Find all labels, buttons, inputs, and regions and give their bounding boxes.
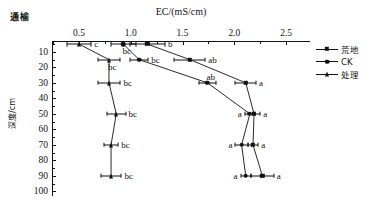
error-bar-cap bbox=[244, 112, 245, 117]
significance-label: bc bbox=[129, 109, 138, 119]
error-bar-cap bbox=[240, 174, 241, 179]
error-bar-cap bbox=[260, 112, 261, 117]
y-tick-label: 10 bbox=[24, 47, 48, 57]
x-tick bbox=[286, 41, 287, 45]
y-tick bbox=[52, 52, 56, 53]
data-point bbox=[244, 81, 248, 85]
significance-label: a bbox=[261, 140, 265, 150]
x-tick-label: 1.0 bbox=[125, 28, 137, 38]
error-bar-cap bbox=[205, 57, 206, 62]
data-point bbox=[188, 57, 192, 61]
y-tick bbox=[52, 98, 56, 99]
y-tick-minor bbox=[52, 75, 55, 76]
y-tick-minor bbox=[52, 184, 55, 185]
significance-label: a bbox=[277, 171, 281, 181]
significance-label: ab bbox=[206, 72, 215, 82]
error-bar-cap bbox=[129, 57, 130, 62]
data-point bbox=[145, 42, 149, 46]
error-bar-cap bbox=[258, 143, 259, 148]
legend-marker-icon bbox=[316, 57, 338, 66]
x-tick-minor bbox=[260, 41, 261, 44]
x-tick-label: 2.0 bbox=[228, 28, 240, 38]
y-tick bbox=[52, 191, 56, 192]
data-point bbox=[114, 111, 118, 116]
error-bar-cap bbox=[125, 112, 126, 117]
y-tick-minor bbox=[52, 153, 55, 154]
y-tick bbox=[52, 145, 56, 146]
x-tick bbox=[183, 41, 184, 45]
x-axis-title: EC/(mS/cm) bbox=[52, 6, 310, 17]
error-bar-cap bbox=[255, 112, 256, 117]
error-bar-cap bbox=[111, 42, 112, 47]
data-point bbox=[77, 42, 81, 47]
y-tick-label: 40 bbox=[24, 93, 48, 103]
error-bar-cap bbox=[250, 174, 251, 179]
y-tick-minor bbox=[52, 91, 55, 92]
x-tick-minor bbox=[208, 41, 209, 44]
x-tick-label: 0.5 bbox=[73, 28, 85, 38]
significance-label: a bbox=[263, 109, 267, 119]
y-tick bbox=[52, 67, 56, 68]
x-tick-minor bbox=[105, 41, 106, 44]
legend-label: CK bbox=[341, 57, 353, 67]
significance-label: bc bbox=[124, 171, 133, 181]
significance-label: bc bbox=[121, 140, 130, 150]
significance-label: bc bbox=[122, 46, 131, 56]
y-tick-label: 30 bbox=[24, 78, 48, 88]
x-tick-label: 1.5 bbox=[177, 28, 189, 38]
legend-item-triangle[interactable]: 处理 bbox=[316, 69, 359, 79]
y-tick bbox=[52, 114, 56, 115]
error-bar-cap bbox=[174, 57, 175, 62]
error-bar-cap bbox=[256, 81, 257, 86]
y-axis-title: 深度/cm bbox=[6, 86, 17, 142]
data-point bbox=[239, 143, 244, 148]
significance-label: ab bbox=[208, 55, 217, 65]
significance-label: bc bbox=[151, 55, 160, 65]
y-tick-label: 20 bbox=[24, 62, 48, 72]
significance-label: a bbox=[259, 78, 263, 88]
significance-label: c bbox=[94, 39, 98, 49]
data-point bbox=[243, 174, 248, 179]
error-bar-cap bbox=[235, 143, 236, 148]
error-bar-cap bbox=[97, 57, 98, 62]
data-point bbox=[109, 142, 113, 147]
significance-label: a bbox=[228, 140, 232, 150]
legend-item-circle[interactable]: CK bbox=[316, 57, 359, 67]
significance-label: bc bbox=[108, 62, 117, 72]
legend-label: 处理 bbox=[341, 68, 359, 80]
error-bar-cap bbox=[199, 81, 200, 86]
plot-frame bbox=[52, 41, 310, 196]
y-tick-label: 90 bbox=[24, 171, 48, 181]
y-tick-minor bbox=[52, 44, 55, 45]
error-bar-cap bbox=[247, 143, 248, 148]
legend-marker-icon bbox=[316, 70, 338, 79]
y-tick bbox=[52, 176, 56, 177]
error-bar-cap bbox=[106, 112, 107, 117]
significance-label: a bbox=[238, 109, 242, 119]
data-point bbox=[248, 112, 253, 117]
y-tick-minor bbox=[52, 60, 55, 61]
error-bar-cap bbox=[100, 174, 101, 179]
data-point bbox=[137, 57, 142, 62]
legend-label: 荒地 bbox=[341, 43, 359, 55]
y-tick-label: 100 bbox=[24, 186, 48, 196]
y-tick bbox=[52, 129, 56, 130]
y-tick-minor bbox=[52, 137, 55, 138]
error-bar-cap bbox=[121, 174, 122, 179]
y-tick-label: 60 bbox=[24, 124, 48, 134]
error-bar-cap bbox=[103, 143, 104, 148]
data-point bbox=[260, 174, 264, 178]
data-point bbox=[251, 143, 255, 147]
significance-label: a bbox=[234, 171, 238, 181]
y-tick-label: 80 bbox=[24, 155, 48, 165]
error-bar-cap bbox=[120, 57, 121, 62]
error-bar-cap bbox=[97, 81, 98, 86]
error-bar-cap bbox=[135, 42, 136, 47]
data-point bbox=[107, 80, 111, 85]
y-tick-label: 70 bbox=[24, 140, 48, 150]
error-bar-cap bbox=[66, 42, 67, 47]
error-bar-cap bbox=[118, 143, 119, 148]
legend-item-square[interactable]: 荒地 bbox=[316, 44, 359, 54]
error-bar-cap bbox=[164, 42, 165, 47]
y-tick-minor bbox=[52, 122, 55, 123]
